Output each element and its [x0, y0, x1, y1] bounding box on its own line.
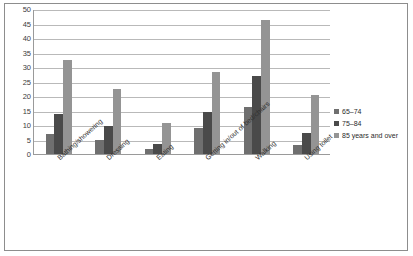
legend-label: 75–84	[342, 120, 361, 127]
legend-swatch-icon	[334, 133, 339, 138]
y-axis-tick-label: 40	[23, 35, 31, 43]
bar	[95, 140, 104, 155]
y-axis-tick-label: 25	[23, 79, 31, 87]
legend-item: 85 years and over	[334, 132, 410, 139]
y-axis-tick-label: 5	[27, 137, 31, 145]
y-axis-tick-label: 0	[27, 151, 31, 159]
legend-label: 85 years and over	[342, 132, 398, 139]
bar	[293, 145, 302, 154]
plot-area	[33, 10, 330, 155]
y-axis-tick-label: 15	[23, 108, 31, 116]
chart-figure: 05101520253035404550 Bathing/showeringDr…	[0, 0, 413, 256]
bar-group	[133, 10, 183, 154]
legend-swatch-icon	[334, 121, 339, 126]
bar-group	[34, 10, 84, 154]
legend-swatch-icon	[334, 109, 339, 114]
y-axis-tick-label: 10	[23, 122, 31, 130]
bar	[46, 134, 55, 154]
y-axis-tick-label: 20	[23, 93, 31, 101]
legend-item: 65–74	[334, 108, 410, 115]
legend-label: 65–74	[342, 108, 361, 115]
y-axis: 05101520253035404550	[10, 10, 31, 155]
bar	[203, 112, 212, 154]
chart-legend: 65–7475–8485 years and over	[334, 108, 410, 144]
y-axis-tick-label: 50	[23, 6, 31, 14]
bars-layer	[34, 10, 330, 154]
bar	[54, 114, 63, 154]
y-axis-tick-label: 35	[23, 50, 31, 58]
bar-group	[282, 10, 332, 154]
legend-item: 75–84	[334, 120, 410, 127]
bar	[63, 60, 72, 154]
bar	[194, 128, 203, 154]
y-axis-tick-label: 45	[23, 21, 31, 29]
bar	[145, 149, 154, 154]
y-axis-tick-label: 30	[23, 64, 31, 72]
bar-group	[183, 10, 233, 154]
bar	[261, 20, 270, 154]
x-axis-labels: Bathing/showeringDressingEatingGetting i…	[33, 156, 330, 220]
